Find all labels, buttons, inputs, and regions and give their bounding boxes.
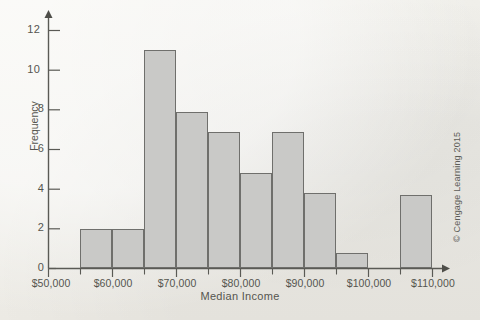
histogram-bar — [144, 50, 176, 268]
x-tick-label: $90,000 — [286, 277, 325, 289]
histogram-bar — [80, 229, 112, 269]
y-tick-marks — [49, 31, 61, 269]
y-tick-label: 4 — [22, 182, 44, 194]
histogram-chart: 0 2 4 6 8 10 12 $50,000 $60,000 $70,000 … — [0, 0, 480, 320]
histogram-bar — [240, 173, 272, 268]
x-tick-label: $80,000 — [222, 277, 261, 289]
histogram-bar — [112, 229, 144, 269]
x-tick-label: $70,000 — [158, 277, 197, 289]
copyright-credit: © Cengage Learning 2015 — [452, 112, 462, 242]
x-major-tick-marks — [49, 269, 433, 278]
x-tick-label: $100,000 — [347, 277, 392, 289]
y-tick-label: 10 — [18, 63, 40, 75]
x-tick-label: $110,000 — [411, 277, 455, 289]
y-axis-title: Frequency — [28, 81, 40, 171]
x-tick-label: $60,000 — [94, 277, 133, 289]
histogram-bar — [272, 132, 304, 269]
x-tick-label: $50,000 — [32, 277, 71, 289]
histogram-bar — [304, 193, 336, 268]
y-tick-label: 2 — [22, 221, 44, 233]
histogram-bar — [176, 112, 208, 269]
histogram-bar — [208, 132, 240, 269]
y-tick-label: 0 — [22, 261, 44, 273]
x-axis-title: Median Income — [0, 290, 480, 302]
histogram-bar — [336, 253, 368, 269]
histogram-bar — [400, 195, 432, 268]
axes-layer — [0, 0, 480, 320]
y-tick-label: 12 — [18, 23, 40, 35]
